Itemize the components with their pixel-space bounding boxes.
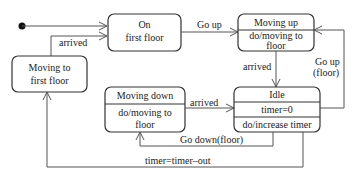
label-timer-out: timer=timer–out — [145, 155, 211, 166]
state-on-first-floor-line1: On — [138, 19, 150, 30]
state-idle: Idle timer=0 do/increase timer — [234, 87, 320, 132]
label-go-down-floor: Go down(floor) — [180, 134, 243, 146]
state-moving-up: Moving up do/moving to floor — [238, 14, 314, 51]
state-idle-variable: timer=0 — [261, 104, 293, 115]
state-idle-activity: do/increase timer — [242, 119, 312, 130]
state-idle-name: Idle — [269, 89, 285, 100]
state-moving-up-name: Moving up — [254, 17, 298, 28]
state-moving-down-activity1: do/moving to — [118, 107, 172, 118]
label-go-up-floor-line2: (floor) — [313, 67, 339, 79]
label-arrived-to-on: arrived — [59, 37, 87, 48]
label-go-up-floor-line1: Go up — [315, 56, 340, 67]
state-moving-down-activity2: floor — [135, 119, 155, 130]
state-moving-to-first-floor: Moving to first floor — [12, 56, 87, 92]
state-on-first-floor: On first floor — [108, 14, 181, 51]
state-moving-up-activity2: floor — [266, 40, 286, 51]
label-moving-down-arrived: arrived — [190, 97, 218, 108]
label-go-up: Go up — [197, 19, 222, 30]
state-moving-down: Moving down do/moving to floor — [105, 87, 185, 132]
state-diagram: arrived On first floor Moving to first f… — [0, 0, 354, 178]
label-moving-up-arrived: arrived — [243, 61, 271, 72]
state-moving-to-first-floor-line1: Moving to — [29, 62, 71, 73]
state-moving-down-name: Moving down — [117, 90, 173, 101]
state-moving-to-first-floor-line2: first floor — [30, 75, 69, 86]
state-on-first-floor-line2: first floor — [125, 32, 164, 43]
